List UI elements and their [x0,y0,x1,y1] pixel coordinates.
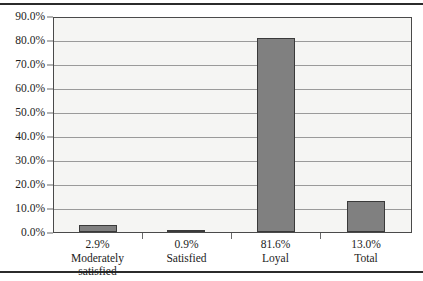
bar-satisfied [167,230,205,232]
figure-top-rule [0,3,423,5]
category-name-line-1-2: Loyal [231,252,320,266]
y-tick-label-40: 40.0% [15,131,45,143]
y-axis: 90.0% 80.0% 70.0% 60.0% 50.0% 40.0% 30.0… [0,0,49,281]
x-axis-label-moderately-satisfied: 2.9% Moderately satisfied [53,238,142,279]
y-tick-label-70: 70.0% [15,59,45,71]
chart-figure: 90.0% 80.0% 70.0% 60.0% 50.0% 40.0% 30.0… [0,0,423,281]
x-axis-label-satisfied: 0.9% Satisfied [142,238,231,265]
gridline-40 [54,137,411,138]
bar-loyal [257,38,295,232]
data-label-total: 13.0% [320,238,412,252]
category-name-line-1-0: Moderately [53,252,142,266]
data-label-moderately-satisfied: 2.9% [53,238,142,252]
gridline-20 [54,185,411,186]
y-tick-label-20: 20.0% [15,179,45,191]
category-name-line-1-1: Satisfied [142,252,231,266]
bar-moderately-satisfied [79,225,117,232]
x-axis-label-total: 13.0% Total [320,238,412,265]
y-tick-label-30: 30.0% [15,155,45,167]
data-label-loyal: 81.6% [231,238,320,252]
gridline-50 [54,113,411,114]
bar-total [347,201,385,232]
gridline-80 [54,41,411,42]
y-tick-label-0: 0.0% [21,227,45,239]
y-tick-label-60: 60.0% [15,83,45,95]
category-name-line-2-0: satisfied [53,265,142,279]
y-tick-label-50: 50.0% [15,107,45,119]
y-tick-label-10: 10.0% [15,203,45,215]
data-label-satisfied: 0.9% [142,238,231,252]
y-tick-label-80: 80.0% [15,35,45,47]
x-axis-label-loyal: 81.6% Loyal [231,238,320,265]
y-tick-label-90: 90.0% [15,11,45,23]
plot-area [53,17,412,233]
gridline-60 [54,89,411,90]
category-name-line-1-3: Total [320,252,412,266]
gridline-70 [54,65,411,66]
gridline-30 [54,161,411,162]
